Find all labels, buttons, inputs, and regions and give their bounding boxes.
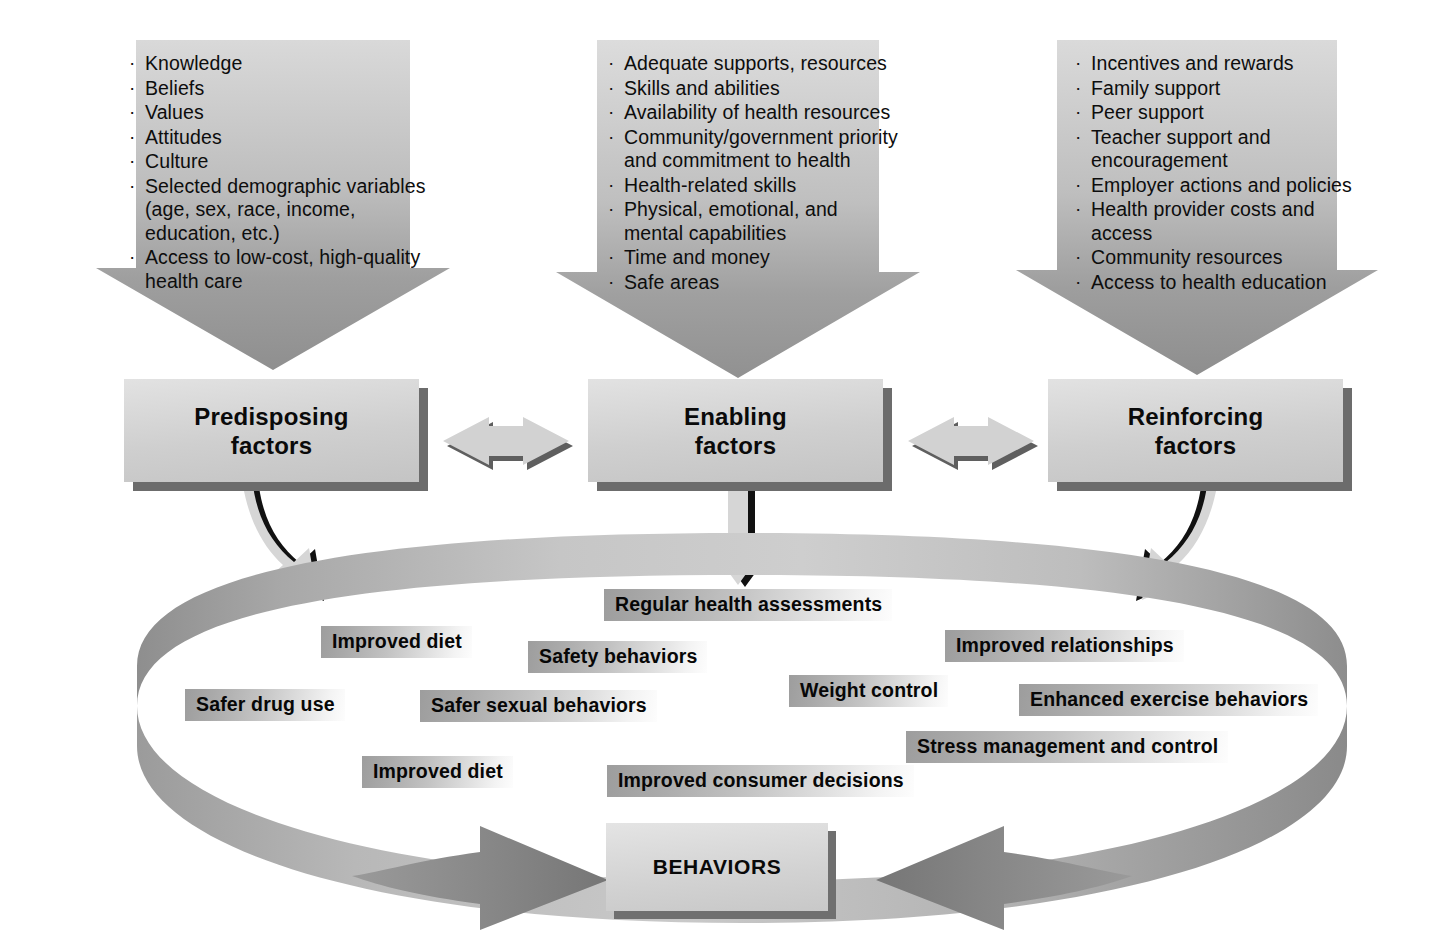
behavior-label-regular-health-assessments[interactable]: Regular health assessments xyxy=(604,589,892,621)
behavior-label-safer-drug-use[interactable]: Safer drug use xyxy=(185,689,345,721)
ribbon-arrow-tips xyxy=(0,0,1456,949)
behavior-label-improved-relationships[interactable]: Improved relationships xyxy=(945,630,1184,662)
behavior-label-improved-diet-lower[interactable]: Improved diet xyxy=(362,756,513,788)
ribbon-arrow-right xyxy=(876,826,1132,930)
behavior-label-stress-management[interactable]: Stress management and control xyxy=(906,731,1228,763)
behaviors-box[interactable]: BEHAVIORS xyxy=(606,823,828,911)
behaviors-label: BEHAVIORS xyxy=(653,855,782,879)
behavior-label-safety-behaviors[interactable]: Safety behaviors xyxy=(528,641,707,673)
behavior-label-safer-sexual-behaviors[interactable]: Safer sexual behaviors xyxy=(420,690,657,722)
behavior-label-enhanced-exercise-behaviors[interactable]: Enhanced exercise behaviors xyxy=(1019,684,1318,716)
behavior-label-weight-control[interactable]: Weight control xyxy=(789,675,948,707)
box-face: BEHAVIORS xyxy=(606,823,828,911)
ribbon-arrow-left xyxy=(352,826,608,930)
behavior-label-improved-diet-upper[interactable]: Improved diet xyxy=(321,626,472,658)
behavior-label-improved-consumer-decisions[interactable]: Improved consumer decisions xyxy=(607,765,914,797)
diagram-canvas: Knowledge Beliefs Values Attitudes Cultu… xyxy=(0,0,1456,949)
